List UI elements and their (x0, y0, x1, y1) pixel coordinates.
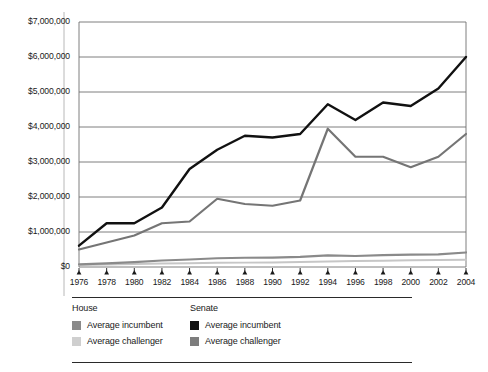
gridlines (79, 22, 466, 267)
series-line (79, 57, 466, 246)
legend-bottom-rule (72, 362, 412, 363)
legend-heading: Senate (190, 303, 281, 313)
legend-entry[interactable]: Average incumbent (72, 320, 163, 330)
legend-swatch-icon (72, 337, 81, 346)
y-axis-tick-label: $0 (14, 261, 70, 271)
chart-figure: $0$1,000,000$2,000,000$3,000,000$4,000,0… (0, 0, 488, 372)
chart-legend: HouseAverage incumbentAverage challenger… (72, 297, 412, 363)
y-axis-tick-label: $1,000,000 (14, 226, 70, 236)
x-axis-ticks (77, 268, 469, 275)
legend-label: Average incumbent (205, 320, 281, 330)
plot-frame (64, 12, 466, 296)
legend-entry[interactable]: Average incumbent (190, 320, 281, 330)
legend-swatch-icon (190, 321, 199, 330)
legend-column-house: HouseAverage incumbentAverage challenger (72, 303, 163, 352)
series-line (79, 129, 466, 250)
series-lines (79, 57, 466, 265)
legend-swatch-icon (72, 321, 81, 330)
y-axis-tick-label: $6,000,000 (14, 51, 70, 61)
legend-label: Average incumbent (87, 320, 163, 330)
legend-heading: House (72, 303, 163, 313)
legend-top-rule (72, 297, 412, 298)
x-axis-tick-label: 2004 (449, 277, 483, 287)
plot-area: $0$1,000,000$2,000,000$3,000,000$4,000,0… (0, 0, 488, 300)
legend-label: Average challenger (205, 336, 281, 346)
legend-entry[interactable]: Average challenger (190, 336, 281, 346)
y-axis-tick-label: $3,000,000 (14, 156, 70, 166)
legend-entry[interactable]: Average challenger (72, 336, 163, 346)
y-axis-tick-label: $5,000,000 (14, 86, 70, 96)
legend-column-senate: SenateAverage incumbentAverage challenge… (190, 303, 281, 352)
legend-swatch-icon (190, 337, 199, 346)
chart-svg (0, 0, 488, 300)
y-axis-tick-label: $4,000,000 (14, 121, 70, 131)
y-axis-tick-label: $7,000,000 (14, 16, 70, 26)
y-axis-tick-label: $2,000,000 (14, 191, 70, 201)
legend-label: Average challenger (87, 336, 163, 346)
